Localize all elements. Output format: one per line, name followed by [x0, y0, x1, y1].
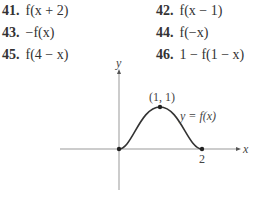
function-graph: y x (1, 1) y = f(x) 2 — [0, 0, 254, 199]
curve-label: y = f(x) — [179, 109, 216, 123]
zero-point-2 — [200, 147, 204, 151]
x-axis-arrow-icon — [236, 147, 241, 151]
tick-label-2: 2 — [199, 152, 205, 166]
peak-point — [158, 105, 162, 109]
origin-point — [117, 147, 121, 151]
x-axis-label: x — [242, 142, 249, 156]
y-axis-label: y — [115, 56, 122, 70]
peak-label: (1, 1) — [149, 90, 175, 104]
